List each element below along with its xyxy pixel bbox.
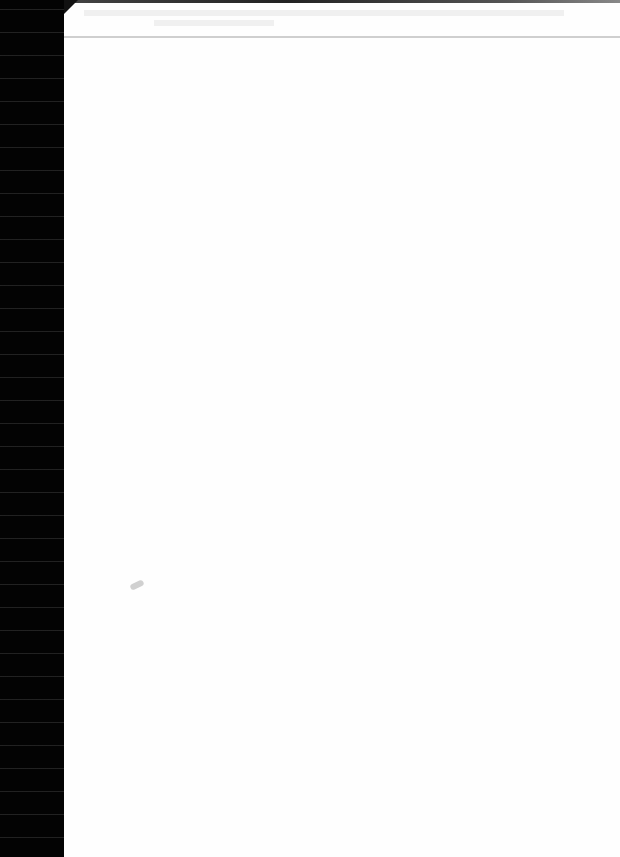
scan-speck bbox=[129, 579, 144, 590]
bleed-through-text bbox=[154, 20, 274, 26]
page-top-edge bbox=[64, 0, 620, 3]
bleed-through-rule bbox=[64, 36, 620, 38]
page-corner-fold bbox=[64, 0, 78, 14]
scan-border-left bbox=[0, 0, 64, 857]
bleed-through-text bbox=[84, 10, 564, 16]
blank-page bbox=[64, 0, 620, 857]
